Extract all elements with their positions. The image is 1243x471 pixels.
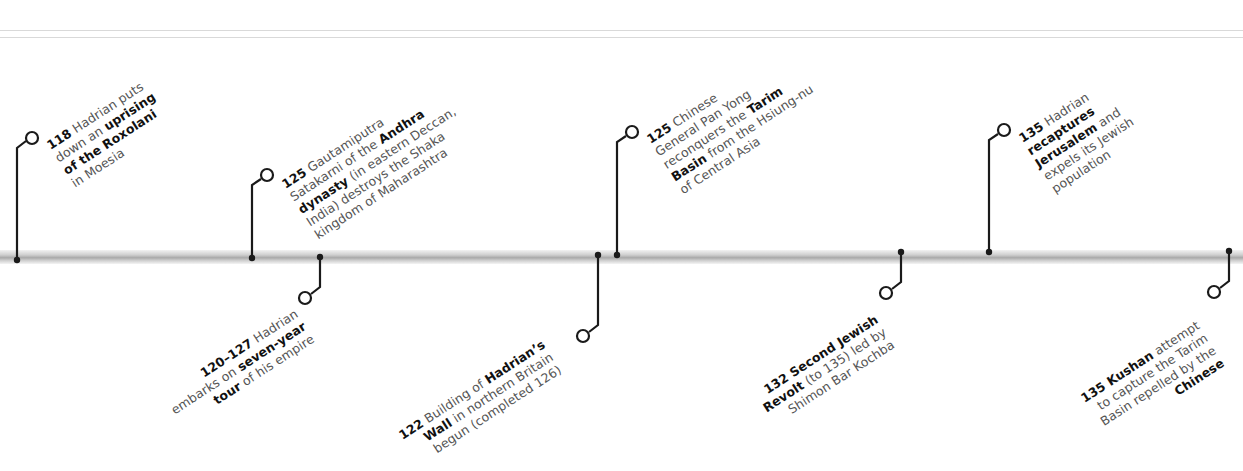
connector-118-above (14, 132, 38, 263)
connector-125-andhra-above (249, 169, 273, 261)
connector-132-below (880, 249, 904, 299)
connector-122-below (577, 252, 601, 342)
connector-135-jerusalem-above (986, 124, 1010, 255)
connector-135-kushan-below (1208, 248, 1232, 298)
connector-120-127-below (299, 254, 323, 304)
connector-125-tarim-above (614, 126, 638, 258)
